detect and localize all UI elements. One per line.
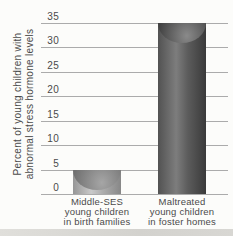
gridline-0 (41, 194, 228, 195)
y-tick-label-25: 25 (41, 60, 59, 72)
bar-maltreated (158, 23, 206, 194)
y-tick-label-35: 35 (41, 11, 59, 23)
y-axis-title-line1: Percent of young children with (12, 29, 24, 180)
y-axis-title: Percent of young children with abnormal … (12, 29, 35, 180)
y-axis-title-line2: abnormal stress hormone levels (23, 29, 35, 180)
y-tick-label-15: 15 (41, 109, 59, 121)
y-tick-label-20: 20 (41, 84, 59, 96)
x-label-maltreated-line3: in foster homes (127, 217, 233, 227)
page-edge-shading (0, 229, 233, 236)
x-label-maltreated: Maltreated young children in foster home… (127, 197, 233, 227)
bar-middle-ses (73, 170, 121, 194)
bar-maltreated-cap (158, 23, 206, 43)
y-tick-label-10: 10 (41, 133, 59, 145)
y-tick-label-30: 30 (41, 35, 59, 47)
y-tick-label-0: 0 (41, 182, 59, 194)
bar-middle-ses-cap (73, 170, 121, 190)
y-tick-label-5: 5 (41, 158, 59, 170)
stress-hormone-bar-chart: Percent of young children with abnormal … (0, 0, 233, 236)
